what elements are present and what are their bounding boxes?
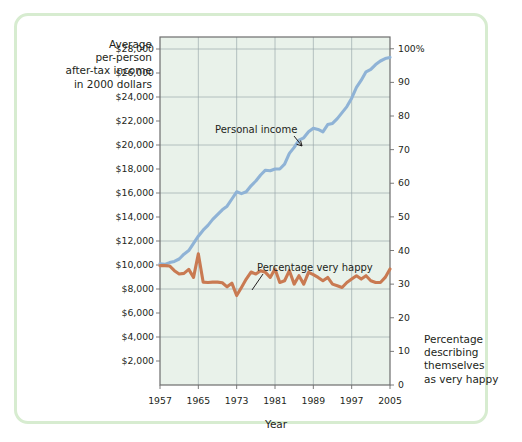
y-tick-label-left: $8,000 <box>78 283 154 294</box>
y-tick-label-right: 90 <box>398 76 448 87</box>
y-tick-label-right: 20 <box>398 312 448 323</box>
series-annotation-percentage-very-happy: Percentage very happy <box>257 262 373 273</box>
y-tick-label-right: 30 <box>398 278 448 289</box>
y-tick-label-right: 0 <box>398 379 448 390</box>
y-tick-label-left: $28,000 <box>78 43 154 54</box>
y-tick-label-right: 70 <box>398 144 448 155</box>
y-tick-label-left: $16,000 <box>78 187 154 198</box>
y-tick-label-right: 80 <box>398 110 448 121</box>
series-annotation-personal-income: Personal income <box>215 124 297 135</box>
y-tick-label-left: $18,000 <box>78 163 154 174</box>
y-tick-label-left: $26,000 <box>78 67 154 78</box>
y-tick-label-right: 40 <box>398 245 448 256</box>
y-tick-label-right: 60 <box>398 177 448 188</box>
y-tick-label-left: $24,000 <box>78 91 154 102</box>
y-tick-label-left: $10,000 <box>78 259 154 270</box>
y-tick-label-left: $22,000 <box>78 115 154 126</box>
y-tick-label-left: $2,000 <box>78 355 154 366</box>
figure-root: Average per-person after-tax income in 2… <box>0 0 522 442</box>
y-tick-label-left: $12,000 <box>78 235 154 246</box>
y-tick-label-right: 50 <box>398 211 448 222</box>
x-tick-label: 2005 <box>365 395 415 406</box>
y-tick-label-left: $4,000 <box>78 331 154 342</box>
y-tick-label-right: 10 <box>398 345 448 356</box>
y-tick-label-left: $20,000 <box>78 139 154 150</box>
y-tick-label-left: $6,000 <box>78 307 154 318</box>
y-tick-label-left: $14,000 <box>78 211 154 222</box>
y-tick-label-right: 100% <box>398 43 448 54</box>
